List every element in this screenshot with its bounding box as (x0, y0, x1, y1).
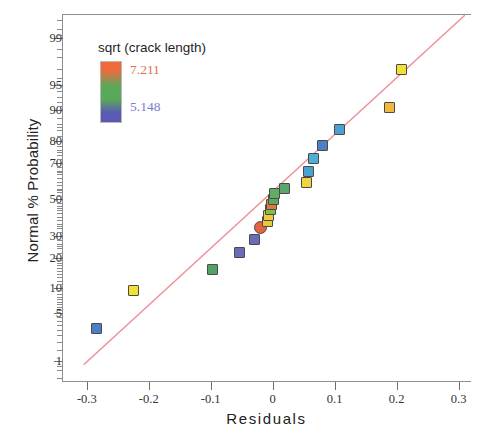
x-tick-label: -0.3 (64, 392, 110, 407)
data-point-marker (308, 153, 319, 164)
normal-probability-plot: Normal % Probability Residuals 151020305… (0, 0, 477, 438)
x-tick-mark (273, 382, 274, 390)
legend-max-value: 7.211 (130, 62, 160, 78)
x-tick-label: 0.3 (436, 392, 477, 407)
x-tick-label: -0.1 (188, 392, 234, 407)
data-point-marker (396, 64, 407, 75)
data-point-marker (279, 183, 290, 194)
data-point-marker (249, 234, 260, 245)
legend-title: sqrt (crack length) (98, 40, 258, 55)
data-point-marker (91, 323, 102, 334)
y-tick-label: 30 (28, 228, 62, 243)
y-tick-label: 95 (28, 78, 62, 93)
data-point-marker (334, 124, 345, 135)
x-tick-label: 0.1 (312, 392, 358, 407)
data-point-marker (301, 177, 312, 188)
data-point-marker (128, 285, 139, 296)
y-tick-label: 90 (28, 103, 62, 118)
x-tick-mark (211, 382, 212, 390)
x-tick-mark (397, 382, 398, 390)
x-tick-label: 0 (250, 392, 296, 407)
y-tick-label: 50 (28, 192, 62, 207)
data-point-marker (317, 140, 328, 151)
x-axis-title: Residuals (62, 410, 471, 427)
legend: sqrt (crack length) 7.211 5.148 (98, 40, 258, 125)
y-tick-label: 99 (28, 30, 62, 45)
legend-color-bar (100, 61, 122, 123)
y-axis-ticks: 15102030507080909599 (0, 0, 62, 438)
x-tick-mark (149, 382, 150, 390)
y-tick-label: 10 (28, 281, 62, 296)
y-tick-label: 70 (28, 155, 62, 170)
x-tick-mark (459, 382, 460, 390)
data-point-marker (384, 102, 395, 113)
data-point-marker (207, 264, 218, 275)
x-tick-label: -0.2 (126, 392, 172, 407)
legend-min-value: 5.148 (130, 99, 160, 115)
x-tick-mark (335, 382, 336, 390)
y-tick-label: 5 (28, 306, 62, 321)
data-point-marker (234, 247, 245, 258)
data-point-marker (303, 166, 314, 177)
x-tick-label: 0.2 (374, 392, 420, 407)
x-tick-mark (87, 382, 88, 390)
